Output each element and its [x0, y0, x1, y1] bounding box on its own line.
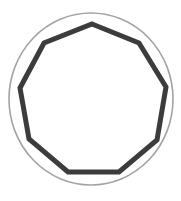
- diagram-canvas: [0, 0, 181, 201]
- nonagon-in-circle-diagram: [0, 0, 181, 201]
- nonagon-shape: [20, 24, 166, 172]
